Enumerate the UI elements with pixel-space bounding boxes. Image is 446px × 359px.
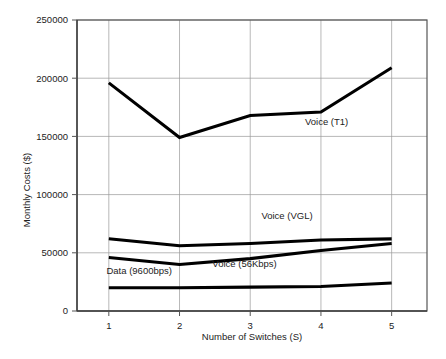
y-tick-label: 250000 (36, 14, 68, 25)
series-label: Data (9600bps) (106, 265, 171, 276)
y-tick-label: 150000 (36, 131, 68, 142)
y-tick-label: 50000 (42, 247, 68, 258)
x-tick-label: 3 (248, 320, 253, 331)
x-tick-label: 2 (177, 320, 182, 331)
line-chart: 050000100000150000200000250000 12345 Voi… (0, 0, 446, 359)
x-tick-label: 1 (106, 320, 111, 331)
x-tick-label: 4 (318, 320, 323, 331)
x-axis-title: Number of Switches (S) (202, 331, 302, 342)
y-axis-title: Monthly Costs ($) (21, 153, 32, 227)
series-label: Voice (56Kbps) (212, 258, 276, 269)
y-tick-label: 100000 (36, 189, 68, 200)
series-label: Voice (T1) (305, 116, 348, 127)
chart-container: 050000100000150000200000250000 12345 Voi… (0, 0, 446, 359)
y-tick-label: 0 (63, 305, 68, 316)
x-tick-label: 5 (389, 320, 394, 331)
y-tick-label: 200000 (36, 73, 68, 84)
series-label: Voice (VGL) (261, 210, 312, 221)
